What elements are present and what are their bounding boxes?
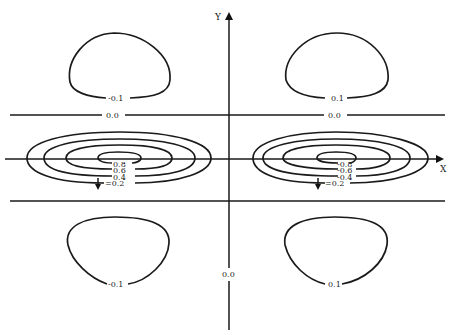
svg-text:-0.1: -0.1 (108, 280, 123, 289)
right-spiral-contours: -0.8 -0.6 -0.4 =0.2 (253, 132, 428, 190)
top-right-loop: 0.1 (286, 33, 388, 103)
upper-zero-label-right: 0.0 (328, 111, 341, 120)
right-spiral-label-3: =0.2 (325, 179, 344, 188)
upper-zero-label-left: 0.0 (106, 111, 119, 120)
bottom-right-loop: 0.1 (285, 217, 388, 289)
svg-text:0.1: 0.1 (328, 280, 341, 289)
bottom-left-loop: -0.1 (67, 217, 169, 289)
y-axis-zero-label: 0.0 (222, 270, 235, 279)
y-axis: Y 0.0 (214, 12, 235, 330)
contour-diagram: Y 0.0 X 0.0 0.0 -0.1 0.1 -0.1 0.1 (0, 0, 458, 335)
left-spiral-label-3: =0.2 (105, 179, 124, 188)
y-axis-label: Y (214, 12, 222, 22)
left-spiral-contours: 0.8 0.6 0.4 =0.2 (27, 132, 211, 190)
x-axis-label: X (440, 164, 447, 174)
upper-zero-line: 0.0 0.0 (10, 111, 445, 120)
top-left-loop: -0.1 (69, 33, 170, 103)
svg-text:0.1: 0.1 (331, 94, 344, 103)
svg-text:-0.1: -0.1 (108, 94, 123, 103)
